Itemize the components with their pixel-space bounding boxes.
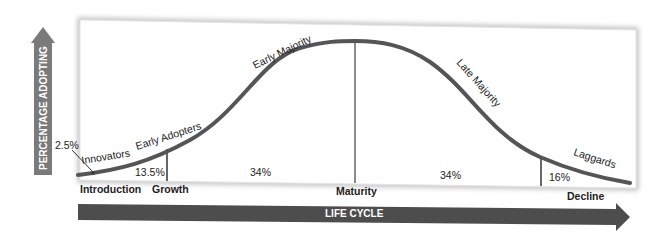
percent-early-adopters: 13.5% [135, 166, 165, 178]
life-cycle-arrow: LIFE CYCLE [78, 203, 630, 231]
y-axis-label: PERCENTAGE ADOPTING [38, 46, 49, 170]
stage-growth: Growth [152, 183, 189, 195]
stage-introduction: Introduction [80, 183, 141, 195]
percent-early-majority: 34% [250, 166, 271, 178]
stage-maturity: Maturity [336, 185, 377, 197]
percent-innovators: 2.5% [55, 139, 79, 151]
stage-decline: Decline [567, 190, 605, 202]
innovators-pointer-dot [92, 172, 95, 175]
percentage-adopting-arrow: PERCENTAGE ADOPTING [31, 27, 55, 175]
percent-late-majority: 34% [440, 169, 461, 181]
x-axis-label: LIFE CYCLE [325, 208, 384, 219]
percent-laggards: 16% [549, 171, 570, 183]
adoption-curve-diagram: PERCENTAGE ADOPTING LIFE CYCLE Innovator… [0, 0, 667, 241]
